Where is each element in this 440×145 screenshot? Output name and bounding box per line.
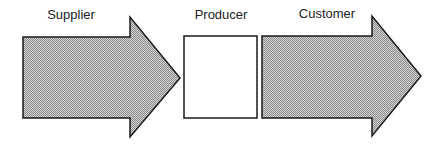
supplier-label: Supplier <box>47 7 95 22</box>
producer-label: Producer <box>195 7 248 22</box>
producer-box <box>184 36 257 118</box>
customer-label: Customer <box>299 6 355 21</box>
customer-arrow <box>262 16 421 136</box>
supplier-arrow <box>23 17 180 137</box>
